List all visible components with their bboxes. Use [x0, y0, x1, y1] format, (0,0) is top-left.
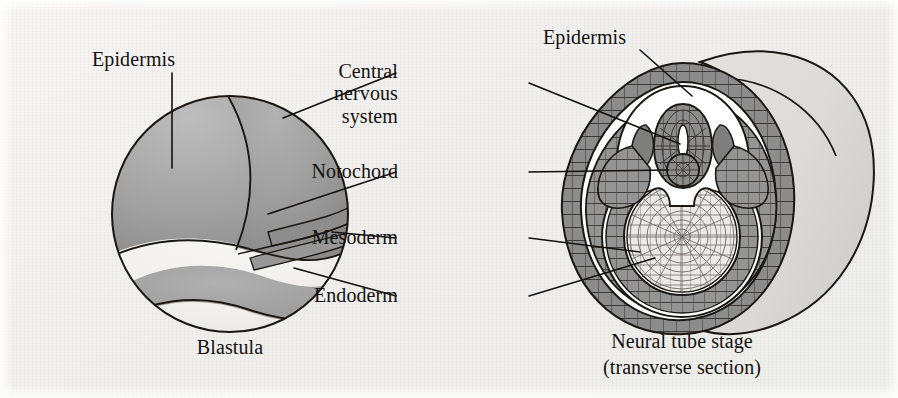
- caption-neural-tube-line1: Neural tube stage: [572, 330, 792, 352]
- neural-tube-notochord: [667, 154, 699, 186]
- caption-blastula: Blastula: [150, 336, 310, 358]
- neural-tube-section: [562, 63, 794, 334]
- label-neural-epidermis: Epidermis: [543, 26, 626, 48]
- label-endoderm: Endoderm: [248, 284, 398, 306]
- embryo-development-figure: Epidermis Central nervous system Notocho…: [0, 0, 898, 398]
- label-notochord: Notochord: [248, 160, 398, 182]
- label-mesoderm: Mesoderm: [248, 226, 398, 248]
- label-blastula-epidermis: Epidermis: [92, 48, 175, 70]
- caption-neural-tube-line2: (transverse section): [572, 356, 792, 378]
- label-central-nervous-system: Central nervous system: [248, 60, 398, 127]
